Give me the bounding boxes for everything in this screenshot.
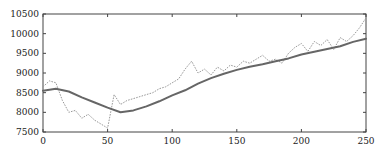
x-tick-label: 0 [40,136,46,146]
y-tick-label: 10000 [10,29,39,39]
x-tick-label: 250 [357,136,374,146]
x-tick-label: 150 [228,136,245,146]
x-tick-label: 50 [102,136,114,146]
x-tick-label: 200 [293,136,310,146]
y-tick-label: 8000 [16,107,39,117]
y-axis: 750080008500900095001000010500 [10,9,366,137]
y-tick-label: 9000 [16,68,39,78]
plot-border [43,14,366,132]
y-tick-label: 8500 [16,88,39,98]
y-tick-label: 7500 [16,127,39,137]
plot-frame [43,14,366,132]
y-tick-label: 10500 [10,9,39,19]
series-observed-line [43,18,366,128]
y-tick-label: 9500 [16,48,39,58]
series-layer [43,18,366,128]
x-tick-label: 100 [164,136,181,146]
line-chart: 750080008500900095001000010500 050100150… [0,0,389,152]
series-smoothed-line [43,39,366,113]
